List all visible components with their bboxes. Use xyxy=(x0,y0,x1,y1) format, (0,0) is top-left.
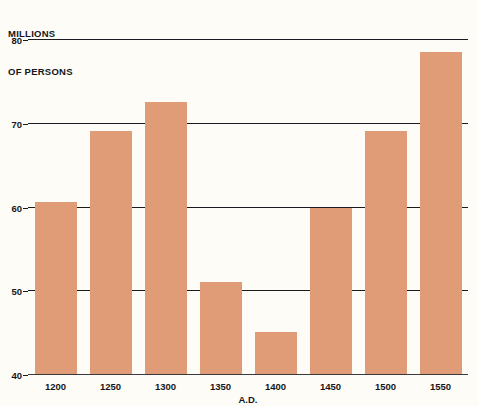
y-tick-mark-40 xyxy=(23,375,28,376)
bar-1250: 1250 xyxy=(90,131,132,374)
y-tick-label-60: 60 xyxy=(11,202,22,213)
x-tick-label-1350: 1350 xyxy=(210,381,231,392)
population-bar-chart: MILLIONS OF PERSONS A.D. 405060708012001… xyxy=(0,0,478,406)
y-tick-mark-80 xyxy=(23,40,28,41)
y-tick-label-50: 50 xyxy=(11,286,22,297)
y-tick-mark-70 xyxy=(23,124,28,125)
y-tick-label-80: 80 xyxy=(11,35,22,46)
y-tick-mark-50 xyxy=(23,291,28,292)
bar-1450: 1450 xyxy=(310,208,352,374)
y-tick-mark-60 xyxy=(23,208,28,209)
x-tick-label-1500: 1500 xyxy=(375,381,396,392)
x-tick-label-1550: 1550 xyxy=(430,381,451,392)
plot-area: A.D. 40506070801200125013001350140014501… xyxy=(28,39,468,374)
x-axis-title: A.D. xyxy=(239,394,258,405)
bar-1300: 1300 xyxy=(145,102,187,374)
bar-1350: 1350 xyxy=(200,282,242,374)
x-tick-label-1250: 1250 xyxy=(100,381,121,392)
bar-1550: 1550 xyxy=(420,52,462,374)
bar-1500: 1500 xyxy=(365,131,407,374)
gridline-70: 70 xyxy=(28,123,468,124)
x-tick-label-1400: 1400 xyxy=(265,381,286,392)
gridline-40: 40 xyxy=(28,374,468,375)
bar-1200: 1200 xyxy=(35,202,77,374)
x-tick-label-1450: 1450 xyxy=(320,381,341,392)
y-tick-label-40: 40 xyxy=(11,370,22,381)
y-tick-label-70: 70 xyxy=(11,118,22,129)
gridline-80: 80 xyxy=(28,39,468,40)
bar-1400: 1400 xyxy=(255,332,297,374)
x-tick-label-1200: 1200 xyxy=(45,381,66,392)
x-tick-label-1300: 1300 xyxy=(155,381,176,392)
